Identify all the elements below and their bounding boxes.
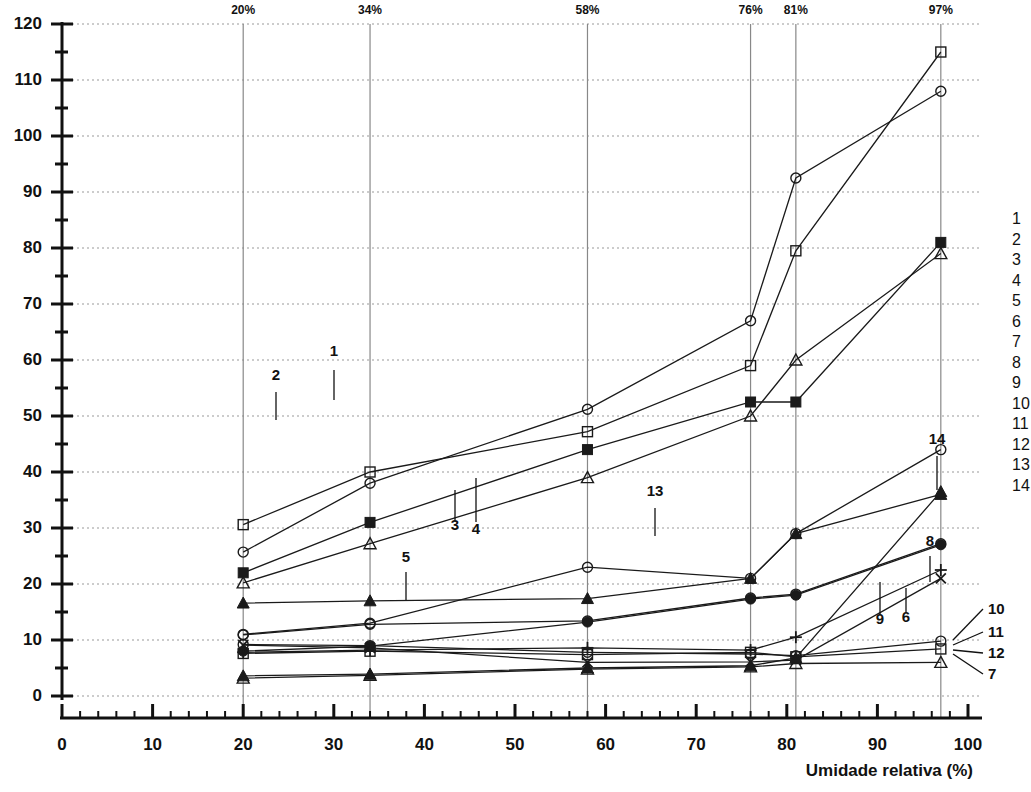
callout-label-1: 1 (330, 342, 338, 359)
callout-label-13: 13 (647, 482, 664, 499)
top-axis-label: 97% (929, 3, 953, 17)
chart-figure: 20%34%58%76%81%97%0102030405060708090100… (0, 0, 1031, 792)
data-point-filled-square (746, 397, 756, 407)
edge-label-10: 10 (988, 600, 1005, 617)
x-axis-tick-label: 0 (57, 735, 66, 754)
y-axis-tick-label: 60 (23, 350, 42, 369)
data-point-filled-square (582, 445, 592, 455)
callout-label-14: 14 (929, 430, 946, 447)
legend-item-13: 13 (1012, 456, 1030, 473)
callout-label-8: 8 (926, 532, 934, 549)
data-point-filled-circle (746, 594, 756, 604)
y-axis-tick-label: 120 (14, 14, 42, 33)
x-axis-tick-label: 10 (143, 735, 162, 754)
top-axis-label: 76% (739, 3, 763, 17)
x-axis-tick-label: 30 (324, 735, 343, 754)
legend-item-3: 3 (1012, 251, 1021, 268)
legend-item-11: 11 (1012, 415, 1029, 432)
y-axis-tick-label: 40 (23, 462, 42, 481)
chart-canvas: 20%34%58%76%81%97%0102030405060708090100… (0, 0, 1031, 792)
x-axis-tick-label: 40 (415, 735, 434, 754)
legend-item-10: 10 (1012, 395, 1030, 412)
top-axis-label: 58% (575, 3, 599, 17)
legend-item-5: 5 (1012, 292, 1021, 309)
chart-background (0, 0, 1031, 792)
data-point-filled-square (791, 397, 801, 407)
data-point-filled-square (936, 237, 946, 247)
y-axis-tick-label: 0 (33, 686, 42, 705)
y-axis-tick-label: 10 (23, 630, 42, 649)
callout-label-5: 5 (402, 548, 410, 565)
legend-item-14: 14 (1012, 477, 1030, 494)
x-axis-tick-label: 20 (234, 735, 253, 754)
y-axis-tick-label: 70 (23, 294, 42, 313)
top-axis-label: 34% (358, 3, 382, 17)
data-point-filled-circle (582, 617, 592, 627)
x-axis-title: Umidade relativa (%) (806, 761, 973, 780)
legend-item-4: 4 (1012, 272, 1021, 289)
x-axis-tick-label: 90 (868, 735, 887, 754)
legend-item-9: 9 (1012, 374, 1021, 391)
legend-item-6: 6 (1012, 313, 1021, 330)
data-point-filled-circle (936, 540, 946, 550)
edge-label-11: 11 (988, 623, 1004, 640)
x-axis-tick-label: 60 (596, 735, 615, 754)
y-axis-tick-label: 110 (15, 70, 42, 89)
edge-label-12: 12 (988, 644, 1005, 661)
edge-label-7: 7 (988, 665, 996, 682)
legend-item-8: 8 (1012, 354, 1021, 371)
x-axis-tick-label: 50 (506, 735, 525, 754)
callout-label-2: 2 (272, 366, 280, 383)
top-axis-label: 20% (231, 3, 255, 17)
y-axis-tick-label: 30 (23, 518, 42, 537)
data-point-filled-square (365, 517, 375, 527)
callout-label-4: 4 (472, 520, 481, 537)
legend-item-7: 7 (1012, 333, 1021, 350)
legend-item-12: 12 (1012, 436, 1030, 453)
legend-item-2: 2 (1012, 231, 1021, 248)
x-axis-tick-label: 100 (954, 735, 982, 754)
y-axis-tick-label: 90 (23, 182, 42, 201)
x-axis-tick-label: 70 (687, 735, 706, 754)
y-axis-tick-label: 20 (23, 574, 42, 593)
legend-item-1: 1 (1012, 210, 1021, 227)
x-axis-tick-label: 80 (777, 735, 796, 754)
y-axis-tick-label: 50 (23, 406, 42, 425)
top-axis-label: 81% (784, 3, 808, 17)
y-axis-tick-label: 80 (23, 238, 42, 257)
data-point-filled-circle (791, 590, 801, 600)
y-axis-tick-label: 100 (14, 126, 42, 145)
